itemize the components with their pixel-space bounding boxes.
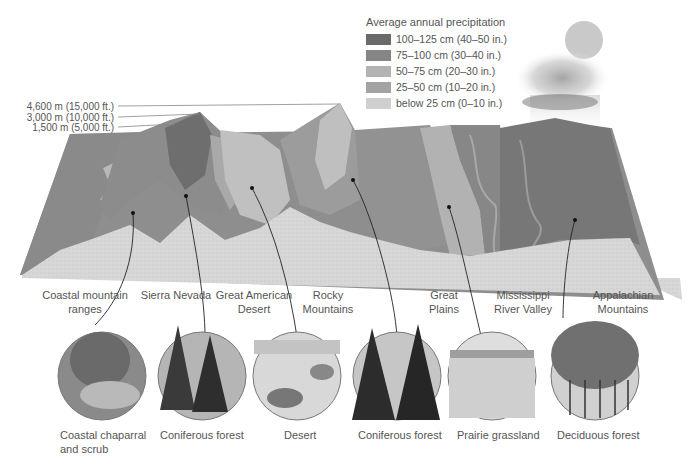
region-line: Great [424,288,464,302]
region-line: Coastal mountain [40,288,130,302]
legend-item: below 25 cm (0–10 in.) [366,95,566,111]
region-line: Mountains [298,302,358,316]
biome-line: Coniferous forest [358,428,442,442]
region-line: Rocky [298,288,358,302]
region-label-great-american-desert: Great American Desert [214,288,294,316]
legend-label: 100–125 cm (40–50 in.) [396,33,507,45]
biome-label-chaparral: Coastal chaparral and scrub [60,428,146,456]
legend-item: 100–125 cm (40–50 in.) [366,31,566,47]
terrain-cross-section [0,0,689,467]
biome-line: Coastal chaparral [60,428,146,442]
biome-label-coniferous-2: Coniferous forest [358,428,442,442]
region-line: Mississippi [478,288,568,302]
region-label-appalachian: Appalachian Mountains [578,288,668,316]
biome-image-deciduous [551,321,639,420]
region-line: River Valley [478,302,568,316]
biome-line: and scrub [60,442,146,456]
biome-line: Deciduous forest [557,428,640,442]
region-line: Desert [214,302,294,316]
region-line: ranges [40,302,130,316]
region-line: Sierra Nevada [136,288,216,302]
region-line: Appalachian [578,288,668,302]
legend-label: 50–75 cm (20–30 in.) [396,65,495,77]
legend-label: below 25 cm (0–10 in.) [396,97,502,109]
biome-label-prairie: Prairie grassland [457,428,540,442]
elevation-label-1500: 1,500 m (5,000 ft.) [0,122,114,133]
biome-image-coniferous-2 [352,324,441,420]
legend-label: 25–50 cm (10–20 in.) [396,81,495,93]
biome-line: Coniferous forest [160,428,244,442]
elevation-label-4600: 4,600 m (15,000 ft.) [0,101,114,112]
biome-line: Prairie grassland [457,428,540,442]
legend-title: Average annual precipitation [366,16,566,28]
legend-swatch [366,50,391,61]
legend-label: 75–100 cm (30–40 in.) [396,49,501,61]
region-line: Great American [214,288,294,302]
biome-label-deciduous: Deciduous forest [557,428,640,442]
legend-item: 50–75 cm (20–30 in.) [366,63,566,79]
legend-item: 75–100 cm (30–40 in.) [366,47,566,63]
region-label-rocky-mountains: Rocky Mountains [298,288,358,316]
legend-swatch [366,82,391,93]
legend-swatch [366,98,391,109]
legend-swatch [366,34,391,45]
biome-label-coniferous-1: Coniferous forest [160,428,244,442]
legend-swatch [366,66,391,77]
precipitation-legend: Average annual precipitation 100–125 cm … [366,16,566,111]
region-line: Mountains [578,302,668,316]
biome-image-desert [253,332,341,420]
biome-label-desert: Desert [284,428,316,442]
biome-line: Desert [284,428,316,442]
region-label-coastal: Coastal mountain ranges [40,288,130,316]
region-label-great-plains: Great Plains [424,288,464,316]
legend-item: 25–50 cm (10–20 in.) [366,79,566,95]
biome-image-coniferous-1 [158,325,246,420]
biome-image-chaparral [58,332,146,420]
region-label-mississippi: Mississippi River Valley [478,288,568,316]
region-line: Plains [424,302,464,316]
region-label-sierra-nevada: Sierra Nevada [136,288,216,302]
biome-image-prairie [448,332,536,420]
